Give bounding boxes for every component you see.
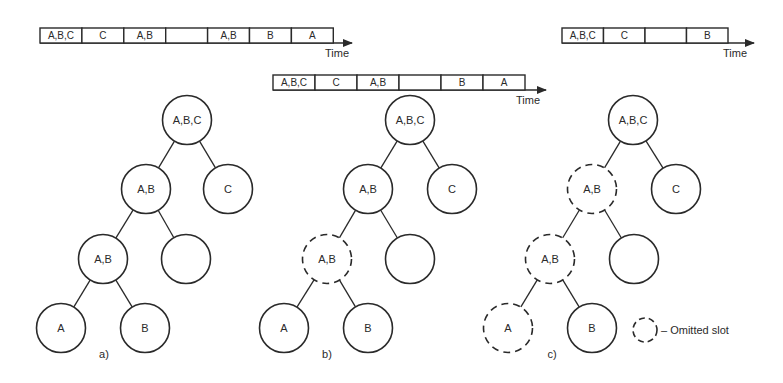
timeslot-label: A,B	[370, 77, 386, 88]
tree-node-label: A,B	[541, 253, 559, 265]
tree-node-label: A,B,C	[619, 114, 648, 126]
tree-node-label: B	[364, 322, 371, 334]
timeslot-label: A	[309, 30, 316, 41]
tree-node-label: C	[448, 183, 456, 195]
tree-edge	[381, 141, 398, 168]
tree-edge	[521, 280, 538, 307]
timeslot-cell	[166, 28, 208, 43]
tree-node-label: C	[672, 183, 680, 195]
timeslot-label: A	[501, 77, 508, 88]
legend: – Omitted slot	[633, 318, 729, 342]
tree-node-label: C	[224, 183, 232, 195]
tree-schedule-diagram: A,B,CCA,BA,BBATimeA,B,CCA,BBATimeA,B,CCB…	[0, 0, 783, 383]
tree-a: A,B,CA,BCA,BABa)	[37, 96, 253, 361]
tree-node-label: A	[280, 322, 288, 334]
tree-node-label: A,B,C	[396, 114, 425, 126]
tree-edge	[605, 210, 622, 238]
timeslot-label: A,B,C	[48, 30, 74, 41]
tree-edge	[158, 210, 174, 237]
tree-edge	[74, 280, 91, 307]
tree-node-label: A,B	[137, 183, 155, 195]
tree-node-label: A	[504, 322, 512, 334]
tree-edge	[297, 280, 314, 307]
panel-label: c)	[547, 348, 556, 360]
time-axis-label: Time	[516, 94, 540, 106]
empty-tree-node	[162, 235, 211, 284]
empty-tree-node	[386, 235, 435, 284]
tree-edge	[116, 210, 133, 238]
timeslot-label: A,B	[137, 30, 153, 41]
tree-edge	[116, 280, 133, 307]
timeline-a: A,B,CCA,BA,BBATime	[40, 28, 352, 59]
timeslot-label: B	[704, 30, 711, 41]
tree-edge	[340, 280, 356, 307]
timeslot-cell	[399, 75, 441, 90]
timeslot-label: B	[267, 30, 274, 41]
tree-node-label: B	[588, 322, 595, 334]
tree-node-label: A,B	[94, 253, 112, 265]
tree-b: A,B,CA,BCA,BABb)	[260, 96, 477, 361]
timelines: A,B,CCA,BA,BBATimeA,B,CCA,BBATimeA,B,CCB…	[40, 28, 754, 106]
tree-edge	[646, 141, 663, 168]
timeline-c: A,B,CCBTime	[562, 28, 754, 59]
tree-c: A,B,CA,BCA,BABc)	[484, 96, 701, 361]
tree-edge	[563, 280, 580, 307]
time-axis-label: Time	[723, 47, 747, 59]
tree-node-label: A,B	[359, 183, 377, 195]
tree-edge	[423, 141, 440, 168]
legend-label: – Omitted slot	[661, 324, 729, 336]
tree-node-label: B	[141, 322, 148, 334]
timeslot-label: C	[99, 30, 106, 41]
timeslot-label: B	[459, 77, 466, 88]
timeslot-label: C	[621, 30, 628, 41]
panel-label: a)	[99, 348, 109, 360]
tree-edge	[339, 210, 355, 238]
tree-node-label: A,B,C	[173, 114, 202, 126]
timeslot-label: C	[332, 77, 339, 88]
time-axis-label: Time	[325, 47, 349, 59]
omitted-slot-legend-icon	[633, 318, 657, 342]
tree-node-label: A	[57, 322, 65, 334]
empty-tree-node	[610, 235, 659, 284]
timeslot-label: A,B	[220, 30, 236, 41]
trees: A,B,CA,BCA,BABa)A,B,CA,BCA,BABb)A,B,CA,B…	[37, 96, 701, 361]
timeslot-label: A,B,C	[570, 30, 596, 41]
tree-edge	[159, 141, 175, 168]
tree-edge	[381, 210, 398, 238]
tree-edge	[200, 141, 216, 168]
figure-canvas: A,B,CCA,BA,BBATimeA,B,CCA,BBATimeA,B,CCB…	[0, 0, 783, 383]
timeslot-label: A,B,C	[281, 77, 307, 88]
timeslot-cell	[645, 28, 687, 43]
tree-node-label: A,B	[583, 183, 601, 195]
tree-edge	[605, 141, 621, 168]
tree-edge	[563, 210, 580, 238]
panel-label: b)	[322, 348, 332, 360]
tree-node-label: A,B	[318, 253, 336, 265]
